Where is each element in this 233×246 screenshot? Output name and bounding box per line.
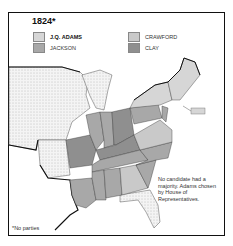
arkansas-territory (38, 140, 70, 178)
rhode-island-callout (191, 108, 205, 114)
footnote: *No parties (12, 225, 39, 231)
state-louisiana (70, 178, 96, 208)
state-new-england (168, 58, 200, 100)
state-missouri (66, 135, 96, 168)
election-note: No candidate had a majority. Adams chose… (158, 176, 220, 202)
state-new-jersey (162, 106, 168, 122)
us-map (0, 0, 233, 246)
florida-territory (120, 190, 160, 228)
callout-line (183, 106, 191, 111)
state-alabama (104, 168, 122, 198)
state-new-york (130, 82, 172, 108)
